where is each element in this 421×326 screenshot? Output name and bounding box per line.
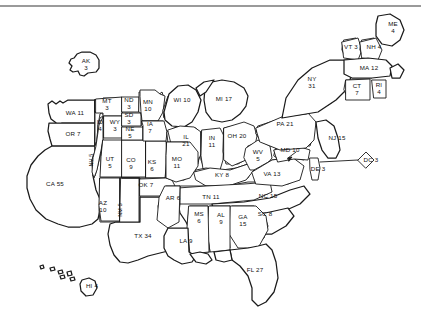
state-shape-KS <box>146 140 167 178</box>
state-shape-RI <box>372 80 386 98</box>
state-shape-AK <box>69 52 99 76</box>
state-shape-HI <box>40 265 97 296</box>
state-shape-MT <box>95 97 122 116</box>
state-shape-AL <box>207 206 230 252</box>
state-shape-ND <box>122 97 139 112</box>
dc-leader-line <box>320 160 358 162</box>
state-shape-NY <box>282 60 352 118</box>
state-shape-ME <box>376 14 404 46</box>
state-shape-GA <box>229 206 268 248</box>
state-shape-DC <box>358 152 374 168</box>
state-shape-MA <box>344 58 404 78</box>
state-shape-MI <box>196 80 248 122</box>
electoral-map-figure: AK3WA 11OR 7MT3ND3MN10WI 10MI 17ID4WY3SD… <box>0 0 421 326</box>
state-shape-VT <box>342 38 362 60</box>
state-shape-WY <box>104 116 122 138</box>
state-shape-CO <box>122 140 146 177</box>
state-shape-PA <box>256 113 316 150</box>
state-shape-WI <box>163 85 201 127</box>
state-shape-WA <box>48 100 95 126</box>
state-shape-CA <box>27 146 100 227</box>
state-shape-MN <box>139 90 165 121</box>
state-shape-IN <box>201 128 224 170</box>
state-shape-UT <box>100 140 122 177</box>
us-map-outline <box>0 0 421 326</box>
state-shape-NE <box>122 127 143 140</box>
state-shape-FL <box>214 244 278 306</box>
state-shape-DE <box>310 158 320 180</box>
state-shape-CT <box>344 79 370 100</box>
state-shape-OR <box>48 123 95 146</box>
state-shape-SD <box>122 113 141 126</box>
state-shape-IA <box>142 121 167 141</box>
state-shape-NJ <box>316 120 340 158</box>
state-shape-MO <box>166 142 198 182</box>
state-shape-NM <box>120 178 140 223</box>
state-shape-AZ <box>99 178 122 222</box>
state-shape-MS <box>187 206 210 254</box>
state-shape-NH <box>360 38 382 60</box>
